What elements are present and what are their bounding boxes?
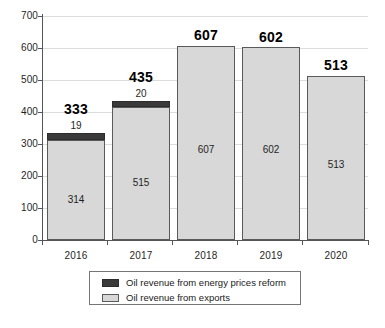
bar-value-exports-2017: 515 — [113, 178, 169, 188]
x-axis-label-2017: 2017 — [112, 250, 170, 261]
bar-total-2017: 435 — [112, 70, 170, 84]
legend-item-reform[interactable]: Oil revenue from energy prices reform — [96, 276, 294, 289]
y-tick-label-500: 500 — [6, 75, 38, 85]
legend-swatch-exports-icon — [102, 294, 119, 302]
bar-segment-reform-2017[interactable] — [112, 101, 170, 107]
bar-total-2018: 607 — [177, 28, 235, 42]
bar-value-exports-2019: 602 — [243, 145, 299, 155]
bar-segment-exports-2017[interactable]: 515 — [112, 107, 170, 240]
bar-value-exports-2016: 314 — [48, 195, 104, 205]
x-axis-line — [42, 240, 369, 241]
x-tick-mark-4 — [302, 241, 303, 245]
bar-segment-reform-2016[interactable] — [47, 133, 105, 139]
legend-label-reform: Oil revenue from energy prices reform — [126, 277, 286, 288]
y-tick-label-200: 200 — [6, 171, 38, 181]
y-tick-label-400: 400 — [6, 107, 38, 117]
x-tick-mark-1 — [107, 241, 108, 245]
x-axis-label-2016: 2016 — [47, 250, 105, 261]
y-tick-label-600: 600 — [6, 43, 38, 53]
x-axis-label-2018: 2018 — [177, 250, 235, 261]
x-tick-mark-2 — [172, 241, 173, 245]
x-axis-label-2019: 2019 — [242, 250, 300, 261]
plot-area: 314 19 333 515 20 435 607 607 602 — [42, 16, 368, 240]
bar-group-2017[interactable]: 515 20 435 — [112, 101, 170, 240]
x-tick-mark-0 — [42, 241, 43, 245]
chart-legend: Oil revenue from energy prices reform Oi… — [89, 271, 301, 305]
bar-group-2018[interactable]: 607 607 — [177, 46, 235, 240]
bar-segment-exports-2018[interactable]: 607 — [177, 46, 235, 240]
bar-value-reform-2016: 19 — [47, 121, 105, 131]
x-axis-label-2020: 2020 — [307, 250, 365, 261]
y-tick-label-300: 300 — [6, 139, 38, 149]
bar-value-reform-2017: 20 — [112, 89, 170, 99]
bar-total-2016: 333 — [47, 102, 105, 116]
legend-label-exports: Oil revenue from exports — [126, 292, 230, 303]
bar-value-exports-2020: 513 — [308, 160, 364, 170]
y-tick-label-0: 0 — [6, 235, 38, 245]
stacked-bar-chart: 700 600 500 400 300 200 100 0 314 19 333… — [0, 0, 385, 328]
bar-segment-exports-2020[interactable]: 513 — [307, 76, 365, 240]
bar-total-2019: 602 — [242, 30, 300, 44]
bar-value-exports-2018: 607 — [178, 145, 234, 155]
bar-total-2020: 513 — [307, 58, 365, 72]
x-tick-mark-3 — [237, 241, 238, 245]
bar-segment-exports-2016[interactable]: 314 — [47, 140, 105, 241]
y-tick-label-100: 100 — [6, 203, 38, 213]
bar-group-2016[interactable]: 314 19 333 — [47, 133, 105, 240]
bar-segment-exports-2019[interactable]: 602 — [242, 47, 300, 240]
legend-item-exports[interactable]: Oil revenue from exports — [96, 291, 294, 304]
x-tick-mark-5 — [368, 241, 369, 245]
y-tick-label-700: 700 — [6, 11, 38, 21]
legend-swatch-reform-icon — [102, 279, 119, 287]
bar-group-2020[interactable]: 513 513 — [307, 76, 365, 240]
bar-group-2019[interactable]: 602 602 — [242, 47, 300, 240]
